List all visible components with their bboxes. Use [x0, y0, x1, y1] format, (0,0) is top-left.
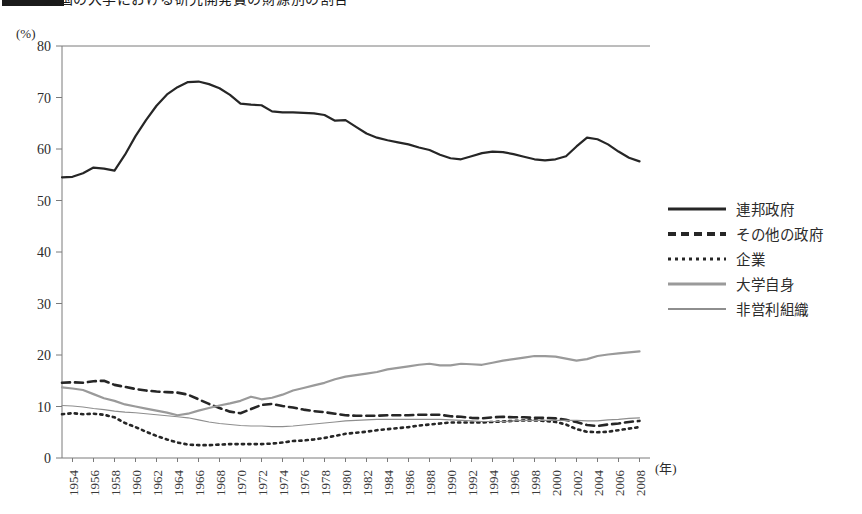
x-axis-tick-label: 1980	[339, 470, 354, 496]
x-axis-tick-label: 1996	[507, 470, 522, 497]
x-axis-tick-label: 1982	[360, 470, 375, 496]
x-axis-tick-label: 2002	[570, 470, 585, 496]
legend-label: 非営利組織	[736, 298, 809, 319]
y-axis-tick-label: 80	[37, 39, 51, 54]
y-axis-tick-label: 40	[37, 245, 51, 260]
x-axis-tick-label: 2000	[549, 470, 564, 496]
legend-item-nonprofit-organization[interactable]: 非営利組織	[668, 296, 858, 321]
x-axis-tick-label: 2006	[612, 470, 627, 497]
x-axis-tick-label: 1968	[213, 470, 228, 496]
legend-item-university-itself[interactable]: 大学自身	[668, 271, 858, 296]
x-axis-tick-label: 1970	[234, 470, 249, 496]
legend-swatch-gray-thin-icon	[668, 302, 726, 316]
x-axis-tick-label: 1956	[87, 470, 102, 497]
x-axis-tick-label: 1958	[108, 470, 123, 496]
chart-legend: 連邦政府 その他の政府 企業 大学自身 非営利組織	[668, 196, 858, 321]
legend-item-business[interactable]: 企業	[668, 246, 858, 271]
x-axis-tick-label: 1960	[129, 470, 144, 496]
y-axis-tick-label: 70	[37, 91, 51, 106]
y-axis-tick-label: 0	[44, 451, 51, 466]
chart-axis-frame	[62, 46, 650, 458]
legend-label: その他の政府	[736, 223, 823, 244]
x-axis-tick-label: 1986	[402, 470, 417, 497]
legend-item-other-government[interactable]: その他の政府	[668, 221, 858, 246]
series-line-gray-thick	[62, 351, 640, 415]
legend-swatch-dotted-icon	[668, 252, 726, 266]
x-axis-tick-label: 1954	[66, 470, 81, 497]
legend-item-federal-government[interactable]: 連邦政府	[668, 196, 858, 221]
series-line-solid-dark	[62, 82, 640, 178]
y-axis-tick-label: 60	[37, 142, 51, 157]
x-axis-tick-label: 1988	[423, 470, 438, 496]
legend-swatch-gray-thick-icon	[668, 277, 726, 291]
legend-swatch-solid-dark-icon	[668, 202, 726, 216]
x-axis-unit-label: (年)	[655, 458, 677, 477]
y-axis-tick-label: 10	[37, 400, 51, 415]
x-axis-tick-label: 1998	[528, 470, 543, 496]
y-axis-tick-label: 30	[37, 297, 51, 312]
x-axis-tick-label: 1964	[171, 470, 186, 497]
legend-label: 大学自身	[736, 273, 794, 294]
x-axis-tick-label: 1992	[465, 470, 480, 496]
x-axis-tick-label: 2008	[633, 470, 648, 496]
x-axis-tick-label: 1978	[318, 470, 333, 496]
legend-swatch-dashed-icon	[668, 227, 726, 241]
x-axis-tick-label: 1990	[444, 470, 459, 496]
legend-label: 企業	[736, 248, 765, 269]
legend-label: 連邦政府	[736, 198, 794, 219]
x-axis-tick-label: 1962	[150, 470, 165, 496]
x-axis-tick-label: 1974	[276, 470, 291, 497]
x-axis-tick-label: 1984	[381, 470, 396, 497]
x-axis-tick-label: 1976	[297, 470, 312, 497]
y-axis-unit-label: (%)	[16, 26, 36, 42]
x-axis-tick-label: 1972	[255, 470, 270, 496]
x-axis-tick-label: 2004	[591, 470, 606, 497]
series-line-dashed	[62, 381, 640, 426]
y-axis-tick-label: 50	[37, 194, 51, 209]
y-axis-tick-label: 20	[37, 348, 51, 363]
x-axis-tick-label: 1966	[192, 470, 207, 497]
x-axis-tick-label: 1994	[486, 470, 501, 497]
